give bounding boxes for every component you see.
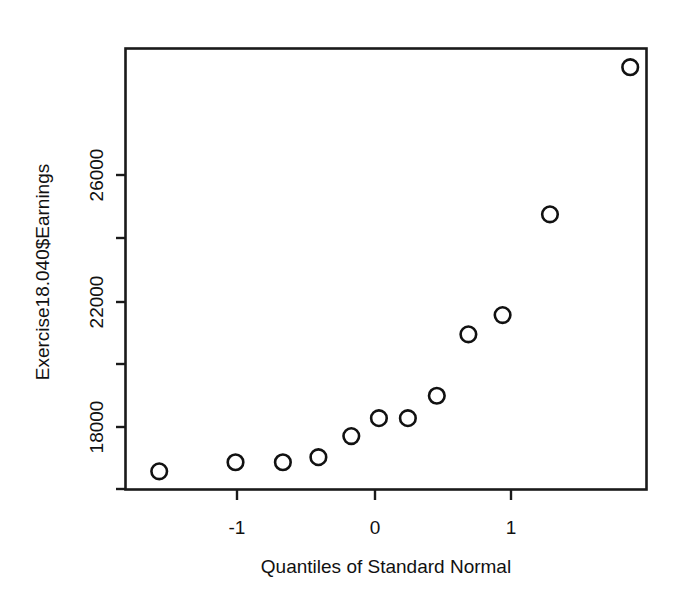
data-point xyxy=(151,464,167,480)
y-tick-label-18000: 18000 xyxy=(86,401,107,454)
x-tick-label-neg1: -1 xyxy=(229,517,246,538)
scatter-points-group xyxy=(151,59,638,479)
y-axis-ticks xyxy=(116,175,125,489)
data-point xyxy=(228,454,244,470)
data-point xyxy=(343,428,359,444)
data-point xyxy=(461,327,477,343)
data-point xyxy=(371,410,387,426)
y-tick-label-26000: 26000 xyxy=(86,149,107,202)
qq-plot-figure: 26000 22000 18000 -1 0 1 Exercise18.040$… xyxy=(0,0,677,610)
y-tick-label-22000: 22000 xyxy=(86,276,107,329)
x-tick-label-1: 1 xyxy=(506,517,517,538)
data-point xyxy=(311,449,327,465)
y-axis-tick-labels: 26000 22000 18000 xyxy=(86,149,107,454)
data-point xyxy=(495,307,511,323)
y-axis-title: Exercise18.040$Earnings xyxy=(32,164,53,381)
x-tick-label-0: 0 xyxy=(370,517,381,538)
x-axis-ticks xyxy=(237,490,511,500)
qq-plot-canvas: 26000 22000 18000 -1 0 1 Exercise18.040$… xyxy=(0,0,677,610)
data-point xyxy=(622,59,638,75)
data-point xyxy=(542,207,558,223)
data-point xyxy=(275,454,291,470)
x-axis-tick-labels: -1 0 1 xyxy=(229,517,517,538)
data-point xyxy=(429,388,445,404)
data-point xyxy=(400,410,416,426)
x-axis-title: Quantiles of Standard Normal xyxy=(261,556,511,577)
